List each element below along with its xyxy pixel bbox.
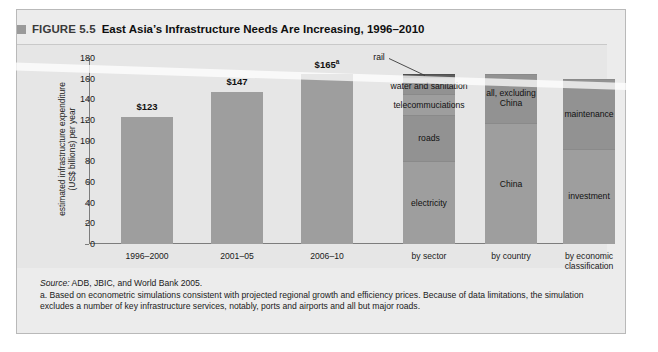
y-axis-tick-mark [85,223,89,224]
stacked-segment-label: maintenance [564,109,613,119]
bar-value-label: $165a [315,58,340,70]
bar [301,74,353,245]
y-axis-tick-label: 160 [55,74,95,83]
square-marker-icon [17,25,26,34]
y-axis-tick-mark [85,182,89,183]
note-a: a. Based on econometric simulations cons… [40,290,600,313]
stacked-segment-label: electricity [411,198,447,208]
page-title: East Asia’s Infrastructure Needs Are Inc… [102,23,425,35]
stacked-segment-label: investment [568,191,610,201]
y-axis-tick-mark [85,99,89,100]
bar-value-label: $147 [226,76,247,87]
figure-notes: Source: ADB, JBIC, and World Bank 2005. … [40,278,600,313]
x-axis-label: by economic classification [565,251,614,271]
y-axis-tick-label: 40 [55,198,95,207]
y-axis-tick-mark [85,161,89,162]
x-axis-label: by sector [412,251,447,261]
y-axis-tick-label: 140 [55,95,95,104]
y-axis-tick-mark [85,244,89,245]
y-axis-tick-mark [85,79,89,80]
y-axis-tick-label: 60 [55,178,95,187]
x-axis-label: 2006–10 [310,251,343,261]
y-axis-tick-label: 20 [55,219,95,228]
y-axis-tick-label: 80 [55,157,95,166]
y-axis-tick-mark [85,120,89,121]
y-axis-tick-mark [85,203,89,204]
y-axis-tick-label: 180 [55,54,95,63]
figure-header: FIGURE 5.5 East Asia’s Infrastructure Ne… [17,18,607,40]
y-axis-line [89,58,90,244]
source-text: ADB, JBIC, and World Bank 2005. [70,278,203,288]
stacked-segment-label: roads [418,133,440,143]
chart-panel: estimated infrastructure expenditure (US… [17,44,607,268]
chart-axes: 020406080100120140160180 $123$147$165a e… [89,58,597,244]
y-axis-tick-label: 100 [55,136,95,145]
stacked-segment-label: rail [373,52,384,62]
y-axis-tick-mark [85,141,89,142]
x-axis-label: by country [491,251,531,261]
source-label: Source: [40,278,70,288]
figure-number: FIGURE 5.5 [32,23,96,35]
stacked-segment-label: water and sanitation [391,81,468,91]
y-axis-tick-label: 0 [55,240,95,249]
stacked-segment-label: telecommuciations [393,100,464,110]
y-axis-tick-mark [85,58,89,59]
x-axis-label: 1996–2000 [125,251,168,261]
bar-value-label: $123 [136,101,157,112]
bar [211,92,263,244]
y-axis-tick-label: 120 [55,116,95,125]
source-line: Source: ADB, JBIC, and World Bank 2005. [40,278,600,290]
stacked-segment-label: all, excluding China [486,88,536,108]
bar [121,117,173,244]
stacked-segment-label: China [500,179,522,189]
x-axis-label: 2001–05 [220,251,253,261]
figure-container: FIGURE 5.5 East Asia’s Infrastructure Ne… [0,0,658,352]
stacked-bar-segment [403,74,455,78]
